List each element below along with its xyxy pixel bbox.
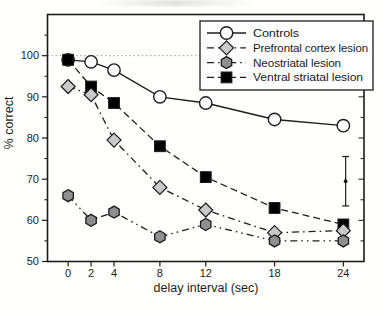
series-ventral-striatal-lesion-marker — [154, 141, 165, 152]
x-tick-label: 2 — [88, 267, 94, 279]
series-neostriatal-lesion-marker — [201, 218, 211, 230]
x-tick-label: 8 — [157, 267, 163, 279]
y-axis-label: % correct — [2, 96, 16, 149]
series-neostriatal-lesion-marker — [86, 214, 96, 226]
series-controls-marker — [200, 97, 212, 109]
y-tick-label: 70 — [27, 173, 39, 185]
series-controls-marker — [85, 56, 97, 68]
scan-artifact — [95, 0, 255, 6]
series-prefrontal-cortex-lesion-marker — [199, 203, 213, 217]
series-ventral-striatal-lesion-marker — [63, 54, 74, 65]
x-tick-label: 12 — [200, 267, 212, 279]
line-chart: 50607080901000248121824 % correct delay … — [0, 0, 381, 314]
series-neostriatal-lesion-marker — [269, 235, 279, 247]
series-neostriatal-lesion-marker — [155, 231, 165, 243]
chart-figure: 50607080901000248121824 % correct delay … — [0, 0, 381, 314]
legend-label-prefrontal-cortex-lesion: Prefrontal cortex lesion — [253, 42, 368, 54]
series-controls-marker — [108, 64, 120, 76]
series-neostriatal-lesion-marker — [338, 235, 348, 247]
legend-marker-ventral-striatal-lesion — [221, 72, 232, 83]
error-bar-center-dot — [344, 179, 348, 183]
series-neostriatal-lesion-marker — [109, 206, 119, 218]
y-tick-label: 50 — [27, 255, 39, 267]
series-neostriatal-lesion-marker — [63, 190, 73, 202]
plot-layer: 50607080901000248121824 — [21, 15, 373, 280]
x-tick-label: 0 — [65, 267, 71, 279]
series-controls-marker — [337, 119, 349, 131]
series-prefrontal-cortex-lesion-marker — [61, 80, 75, 94]
legend-marker-controls — [220, 27, 232, 39]
x-tick-label: 18 — [268, 267, 280, 279]
x-tick-label: 4 — [111, 267, 117, 279]
legend-marker-neostriatal-lesion — [221, 57, 231, 69]
text-layer: % correct delay interval (sec) Controls … — [2, 27, 368, 295]
legend-label-controls: Controls — [253, 27, 300, 39]
y-tick-label: 90 — [27, 91, 39, 103]
y-tick-label: 80 — [27, 132, 39, 144]
legend-label-ventral-striatal-lesion: Ventral striatal lesion — [253, 71, 363, 83]
x-axis-label: delay interval (sec) — [154, 281, 259, 295]
y-tick-label: 100 — [21, 49, 39, 61]
series-ventral-striatal-lesion-marker — [109, 98, 120, 109]
series-controls-marker — [268, 113, 280, 125]
series-ventral-striatal-lesion-marker — [200, 172, 211, 183]
series-controls-marker — [154, 91, 166, 103]
series-ventral-striatal-lesion-marker — [269, 203, 280, 214]
legend-label-neostriatal-lesion: Neostriatal lesion — [253, 57, 341, 69]
y-tick-label: 60 — [27, 214, 39, 226]
series-prefrontal-cortex-lesion-marker — [107, 133, 121, 147]
x-tick-label: 24 — [337, 267, 349, 279]
